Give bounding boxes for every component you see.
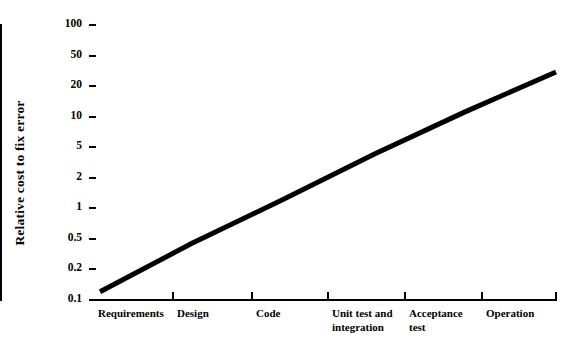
y-tick-label: 100 bbox=[42, 18, 82, 30]
y-tick-label: 0.1 bbox=[42, 293, 82, 305]
data-series-line bbox=[0, 0, 583, 346]
y-tick-mark bbox=[89, 116, 96, 118]
x-tick-mark bbox=[172, 292, 174, 299]
y-tick-mark bbox=[89, 268, 96, 270]
y-tick-mark bbox=[89, 85, 96, 87]
x-tick-mark bbox=[327, 292, 329, 299]
y-tick-label: 50 bbox=[42, 49, 82, 61]
y-tick-label: 2 bbox=[42, 171, 82, 183]
x-tick-label-design: Design bbox=[177, 307, 209, 321]
y-tick-mark bbox=[89, 299, 96, 301]
x-tick-mark bbox=[404, 292, 406, 299]
x-tick-label-code: Code bbox=[256, 307, 280, 321]
y-axis-title: Relative cost to fix error bbox=[0, 0, 40, 346]
y-tick-mark bbox=[89, 207, 96, 209]
y-axis-line bbox=[0, 24, 2, 301]
y-tick-label: 20 bbox=[42, 79, 82, 91]
x-tick-mark bbox=[481, 292, 483, 299]
y-tick-mark bbox=[89, 24, 96, 26]
y-tick-mark bbox=[89, 238, 96, 240]
y-tick-label: 0.2 bbox=[42, 262, 82, 274]
x-axis-line bbox=[96, 299, 557, 301]
y-tick-mark bbox=[89, 146, 96, 148]
y-tick-mark bbox=[89, 55, 96, 57]
x-tick-label-unit-test-and-integration: Unit test and integration bbox=[332, 307, 393, 335]
y-tick-label: 0.5 bbox=[42, 232, 82, 244]
x-tick-mark bbox=[251, 292, 253, 299]
x-tick-label-operation: Operation bbox=[486, 307, 534, 321]
x-tick-label-acceptance-test: Acceptance test bbox=[409, 307, 463, 335]
y-tick-label: 10 bbox=[42, 110, 82, 122]
y-tick-label: 5 bbox=[42, 140, 82, 152]
x-tick-mark bbox=[555, 292, 557, 299]
y-tick-mark bbox=[89, 177, 96, 179]
y-tick-label: 1 bbox=[42, 201, 82, 213]
x-tick-label-requirements: Requirements bbox=[98, 307, 164, 321]
chart-figure: Relative cost to fix error 100 50 20 10 … bbox=[0, 0, 583, 346]
